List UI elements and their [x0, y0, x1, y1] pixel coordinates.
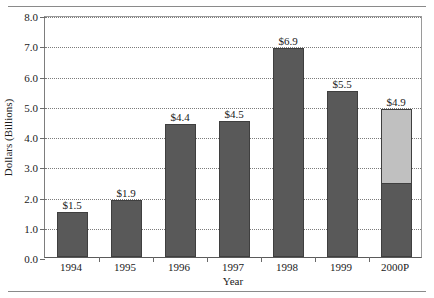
plot-area: $1.5$1.9$4.4$4.5$6.9$5.5$4.9	[45, 17, 421, 257]
y-axis-tick	[40, 168, 45, 169]
bar[interactable]	[273, 48, 304, 257]
y-axis-tick	[40, 138, 45, 139]
bar-slot	[111, 17, 142, 257]
bar-chart-figure: Dollars (Billions) $1.5$1.9$4.4$4.5$6.9$…	[0, 0, 434, 298]
bar-value-label: $6.9	[278, 36, 297, 47]
bar-slot	[273, 17, 304, 257]
bar-slot	[381, 17, 412, 257]
bar-value-label: $4.9	[386, 97, 405, 108]
x-axis-tick-label: 1998	[276, 262, 298, 273]
plot-frame: $1.5$1.9$4.4$4.5$6.9$5.5$4.9 0.01.02.03.…	[44, 16, 422, 258]
bar-value-label: $4.5	[224, 109, 243, 120]
bar[interactable]	[57, 212, 88, 257]
bar-slot	[57, 17, 88, 257]
bar-segment-actual	[58, 213, 87, 256]
y-axis-title: Dollars (Billions)	[2, 16, 16, 258]
y-axis-tick-label: 5.0	[24, 102, 38, 113]
bar[interactable]	[219, 121, 250, 257]
y-axis-tick	[40, 229, 45, 230]
bar[interactable]	[327, 91, 358, 257]
x-axis-tick	[99, 257, 100, 262]
y-axis-tick-label: 4.0	[24, 133, 38, 144]
y-axis-tick	[40, 78, 45, 79]
y-axis-title-label: Dollars (Billions)	[4, 98, 15, 175]
y-axis-tick	[40, 17, 45, 18]
bar[interactable]	[111, 200, 142, 257]
bar-slot	[165, 17, 196, 257]
y-axis-tick-label: 0.0	[24, 254, 38, 265]
bar-segment-actual	[112, 201, 141, 256]
bar-slot	[219, 17, 250, 257]
x-axis-tick	[207, 257, 208, 262]
y-axis-tick-label: 6.0	[24, 72, 38, 83]
x-axis-tick-label: 1996	[168, 262, 190, 273]
bar-segment-actual	[328, 92, 357, 256]
bar-value-label: $1.5	[62, 200, 81, 211]
y-axis-tick-label: 2.0	[24, 193, 38, 204]
figure-top-rule	[8, 6, 426, 7]
x-axis-tick-label: 1994	[60, 262, 82, 273]
bar-value-label: $4.4	[170, 112, 189, 123]
bar-value-label: $1.9	[116, 188, 135, 199]
bar-segment-actual	[274, 49, 303, 256]
x-axis-tick	[315, 257, 316, 262]
x-axis-title: Year	[44, 276, 422, 287]
x-axis-tick	[369, 257, 370, 262]
x-axis-tick-label: 1999	[330, 262, 352, 273]
y-axis-tick-label: 8.0	[24, 12, 38, 23]
y-axis-tick	[40, 108, 45, 109]
x-axis-tick	[261, 257, 262, 262]
y-axis-tick-label: 1.0	[24, 223, 38, 234]
bar[interactable]	[165, 124, 196, 257]
bar-value-label: $5.5	[332, 79, 351, 90]
x-axis-tick	[153, 257, 154, 262]
bar-segment-actual	[166, 125, 195, 256]
bar-segment-actual	[220, 122, 249, 256]
y-axis-tick-label: 7.0	[24, 42, 38, 53]
figure-bottom-rule	[8, 291, 426, 292]
x-axis-tick-label: 1995	[114, 262, 136, 273]
x-axis-tick-label: 2000P	[381, 262, 409, 273]
bar-segment-actual	[382, 184, 411, 256]
bar[interactable]	[381, 109, 412, 257]
bar-segment-projected	[382, 110, 411, 185]
y-axis-tick	[40, 199, 45, 200]
y-axis-tick	[40, 47, 45, 48]
y-axis-tick	[40, 259, 45, 260]
bar-slot	[327, 17, 358, 257]
y-axis-tick-label: 3.0	[24, 163, 38, 174]
x-axis-tick-label: 1997	[222, 262, 244, 273]
